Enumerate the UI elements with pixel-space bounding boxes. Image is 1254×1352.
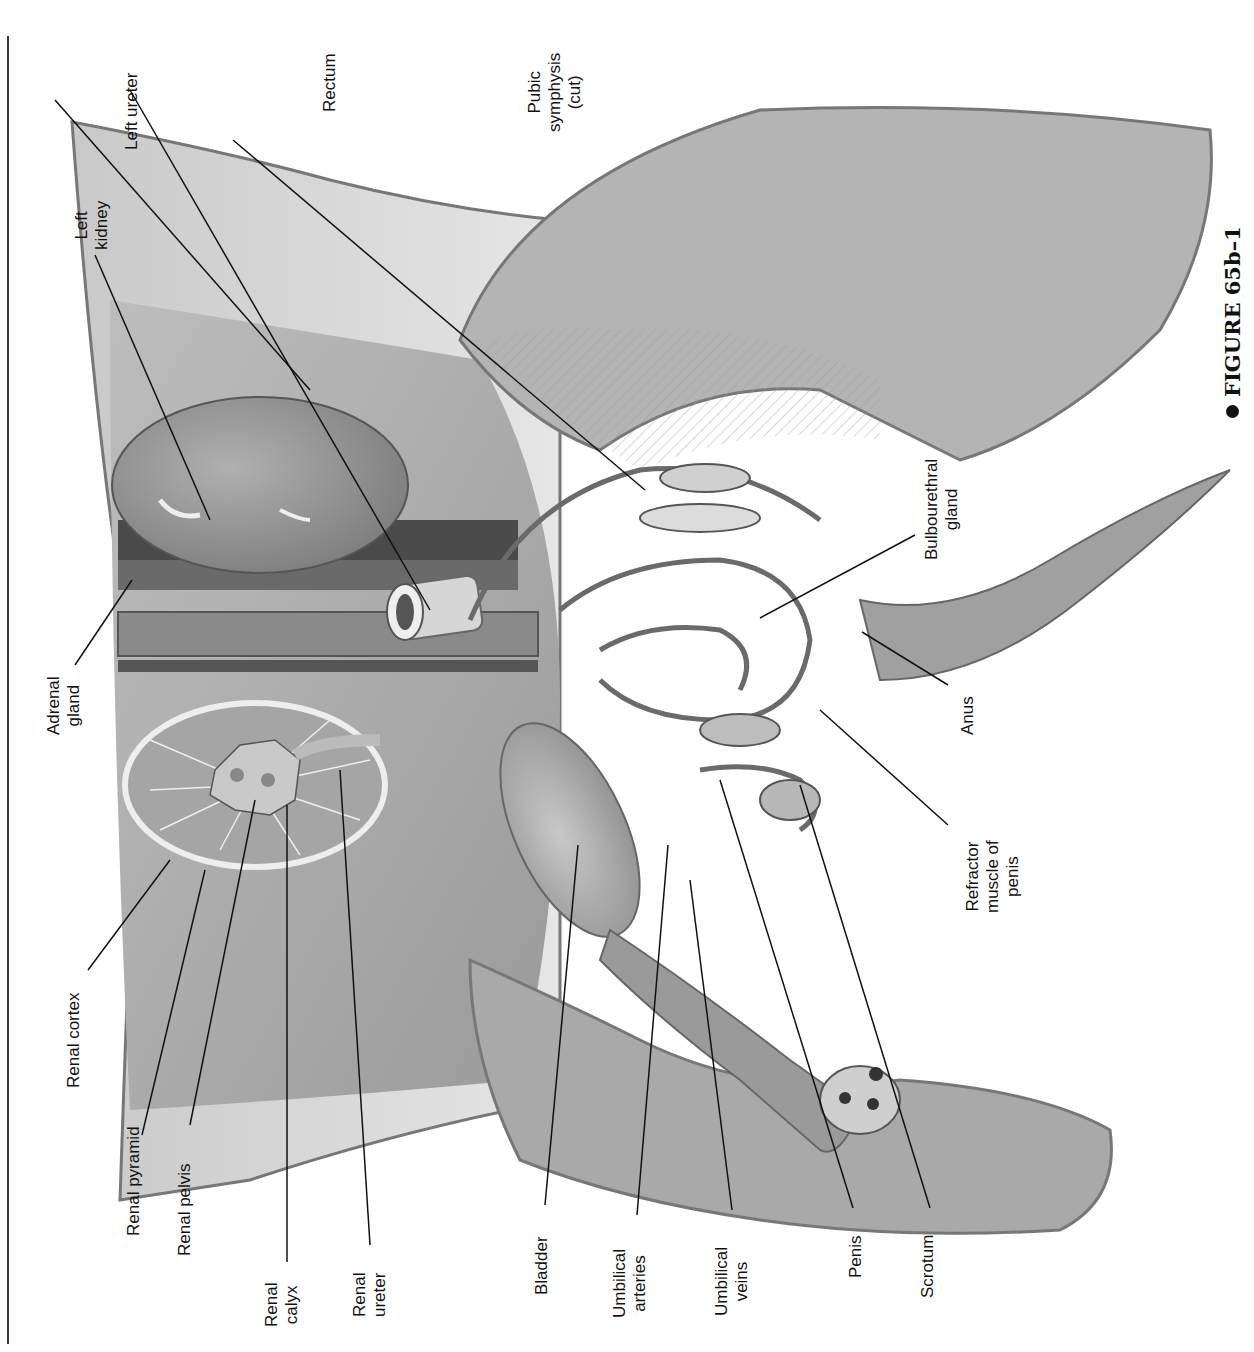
- cut-rectum: [387, 575, 484, 641]
- label-renal-cortex: Renal cortex: [64, 993, 84, 1088]
- label-bladder: Bladder: [532, 1236, 552, 1295]
- figure-caption: FIGURE 65b–1 Urinary System of the Fetal…: [1168, 0, 1254, 418]
- label-scrotum: Scrotum: [918, 1235, 938, 1298]
- bullet-icon: [1226, 405, 1239, 418]
- label-umbilical-veins: Umbilical veins: [712, 1247, 752, 1316]
- label-adrenal-gland: Adrenal gland: [44, 676, 84, 735]
- label-renal-pelvis: Renal pelvis: [175, 1163, 195, 1256]
- label-bulbourethral-gland: Bulbourethral gland: [922, 459, 962, 560]
- label-renal-calyx: Renal calyx: [262, 1283, 302, 1327]
- sectioned-kidney: [125, 703, 385, 867]
- label-renal-pyramid: Renal pyramid: [124, 1126, 144, 1236]
- label-left-kidney: Left kidney: [72, 201, 112, 250]
- label-refractor-muscle: Refractor muscle of penis: [963, 840, 1023, 913]
- label-penis: Penis: [846, 1235, 866, 1278]
- label-umbilical-arteries: Umbilical arteries: [610, 1249, 650, 1318]
- label-left-ureter: Left ureter: [122, 73, 142, 151]
- anatomy-illustration: [0, 0, 1254, 1352]
- label-anus: Anus: [958, 696, 978, 735]
- left-kidney-shape: [112, 397, 408, 573]
- figure-number: FIGURE 65b–1: [1220, 226, 1245, 397]
- label-renal-ureter: Renal ureter: [350, 1273, 390, 1317]
- tail: [860, 470, 1230, 680]
- urinary-system-figure: Left ureter Rectum Pubic symphysis (cut)…: [0, 0, 1254, 1352]
- label-rectum: Rectum: [320, 53, 340, 112]
- label-pubic-symphysis: Pubic symphysis (cut): [525, 53, 585, 132]
